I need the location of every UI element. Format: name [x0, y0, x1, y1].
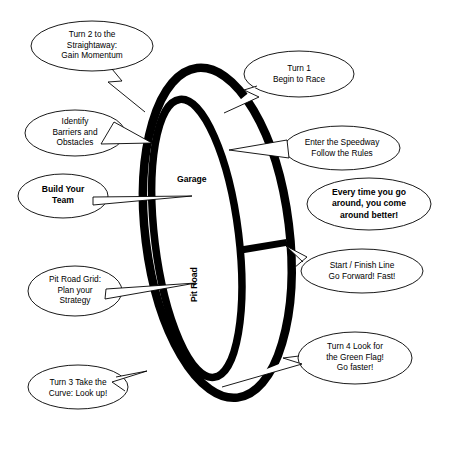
callout-turn-1-hit[interactable] [244, 51, 354, 97]
racetrack-group [126, 59, 309, 406]
inner-track-oval [138, 94, 255, 382]
start-finish-crossbar [239, 242, 287, 250]
callout-tail-turn-2 [108, 69, 145, 112]
callout-build-your-team-hit[interactable] [18, 174, 108, 218]
callout-every-time-hit[interactable] [307, 178, 431, 230]
callout-turn-4-hit[interactable] [298, 332, 412, 384]
diagram-canvas: Turn 2 to the Straightaway: Gain Momentu… [0, 0, 449, 449]
callout-enter-speedway-hit[interactable] [284, 126, 400, 170]
callout-start-finish-hit[interactable] [301, 249, 423, 293]
callout-turn-2-hit[interactable] [31, 21, 153, 71]
callout-turn-3-hit[interactable] [28, 365, 128, 409]
callout-tail-enter-speedway [229, 140, 289, 158]
callout-identify-barriers-hit[interactable] [25, 110, 125, 156]
callout-pit-road-grid-hit[interactable] [28, 266, 122, 316]
